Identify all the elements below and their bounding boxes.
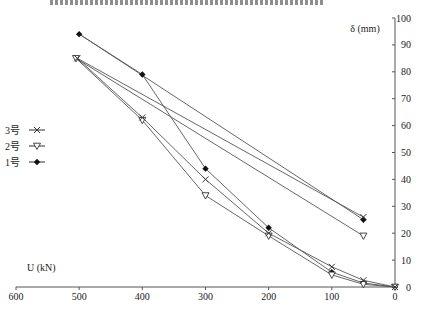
y-tick-label: 0 — [406, 282, 411, 293]
x-tick-label: 300 — [198, 291, 213, 302]
y-tick-label: 80 — [401, 66, 411, 77]
x-axis-label: U (kN) — [27, 262, 56, 274]
legend-marker — [34, 159, 40, 165]
legend-label: 1号 — [5, 157, 20, 168]
y-tick-label: 60 — [401, 120, 411, 131]
data-point-marker — [329, 264, 335, 270]
legend-label: 3号 — [5, 125, 20, 136]
series-group — [73, 31, 399, 291]
data-point-marker — [203, 176, 209, 182]
series-3 — [74, 55, 398, 290]
x-tick-label: 0 — [393, 291, 398, 302]
chart-svg: 0100200300400500600010203040506070809010… — [0, 0, 424, 313]
legend-label: 2号 — [5, 141, 20, 152]
y-tick-label: 30 — [401, 201, 411, 212]
series-1 — [76, 31, 398, 290]
data-point-marker — [202, 193, 209, 199]
y-tick-label: 20 — [401, 228, 411, 239]
y-tick-label: 100 — [396, 13, 411, 24]
x-tick-label: 400 — [135, 291, 150, 302]
x-tick-label: 200 — [261, 291, 276, 302]
y-tick-label: 40 — [401, 174, 411, 185]
series-line — [79, 34, 395, 287]
series-line — [77, 58, 395, 287]
x-tick-label: 600 — [9, 291, 24, 302]
rotated-plot: 0100200300400500600010203040506070809010… — [5, 13, 411, 303]
y-tick-label: 10 — [401, 255, 411, 266]
x-tick-label: 100 — [324, 291, 339, 302]
y-axis-label: δ (mm) — [350, 23, 379, 35]
chart: 0100200300400500600010203040506070809010… — [0, 0, 424, 313]
y-tick-label: 90 — [401, 39, 411, 50]
axes: 0100200300400500600010203040506070809010… — [9, 13, 412, 303]
cropped-caption — [50, 0, 325, 5]
legend: 1号2号3号 — [5, 125, 45, 168]
y-tick-label: 70 — [401, 93, 411, 104]
series-line — [76, 58, 395, 287]
data-point-marker — [76, 31, 82, 37]
y-tick-label: 50 — [401, 147, 411, 158]
series-2 — [73, 56, 399, 291]
data-point-marker — [360, 233, 367, 239]
x-tick-label: 500 — [72, 291, 87, 302]
